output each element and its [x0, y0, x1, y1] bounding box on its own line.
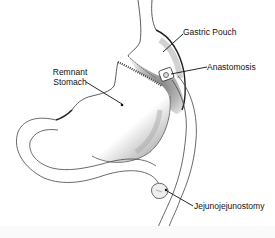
label-anastomosis: Anastomosis: [207, 62, 256, 72]
bottom-margin: [0, 226, 275, 238]
label-gastric-pouch: Gastric Pouch: [183, 27, 236, 37]
label-jejunojejunostomy: Jejunojejunostomy: [194, 201, 264, 211]
esophagus: [128, 0, 156, 56]
diagram-canvas: Gastric Pouch Anastomosis Remnant Stomac…: [0, 0, 275, 238]
label-remnant-stomach-line1: Remnant: [50, 67, 90, 77]
label-remnant-stomach-line2: Stomach: [50, 77, 90, 87]
